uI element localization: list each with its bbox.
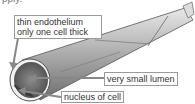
endothelium-arrow: [13, 38, 18, 66]
endothelium-label: thin endothelium only one cell thick: [14, 15, 102, 39]
endothelium-label-line2: only one cell thick: [17, 27, 99, 37]
capillary-diagram: pply.: [0, 0, 195, 104]
endothelium-label-line1: thin endothelium: [17, 17, 99, 27]
nucleus-label: nucleus of cell: [61, 91, 124, 103]
lumen-label: very small lumen: [104, 72, 178, 86]
